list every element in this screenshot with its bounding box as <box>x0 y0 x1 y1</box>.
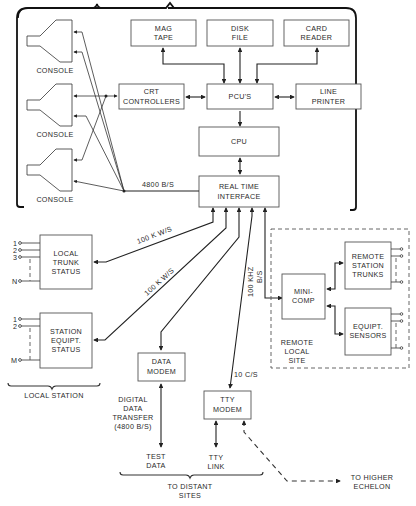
es-label-1: EQUIPT. <box>353 322 383 331</box>
disk-file-label-2: FILE <box>232 33 248 42</box>
distant-sites-label-2: SITES <box>179 491 201 500</box>
ses-label-1: STATION <box>50 327 82 336</box>
local-station-label: LOCAL STATION <box>24 391 83 400</box>
disk-file-label-1: DISK <box>231 24 249 33</box>
tty-rate: 10 C/S <box>234 370 258 379</box>
remote-station-trunks-box: REMOTE STATION TRUNKS <box>345 242 403 289</box>
trunk-link-rate: 100 K W/S <box>135 224 173 246</box>
remote-link-rate-2: B/S <box>255 271 264 284</box>
console-1: CONSOLE <box>27 20 74 75</box>
console-2: CONSOLE <box>27 84 74 139</box>
mag-tape-label-2: TAPE <box>154 33 173 42</box>
lts-label-1: LOCAL <box>53 249 78 258</box>
disk-file-box: DISK FILE <box>207 20 273 46</box>
top-brace <box>18 4 166 18</box>
remote-site-label-3: SITE <box>288 356 305 365</box>
local-station-links: 100 K W/S 100 K W/S <box>94 208 226 340</box>
digital-data-transfer-label: DIGITAL DATA TRANSFER (4800 B/S) <box>112 395 153 431</box>
trunk-input-3: 3 <box>13 253 17 262</box>
tty-modem-label-1: TTY <box>220 395 234 404</box>
console-1-label: CONSOLE <box>36 66 73 75</box>
distant-sites-brace: TO DISTANT SITES <box>120 472 263 500</box>
higher-echelon-label-1: TO HIGHER <box>351 473 394 482</box>
local-station-brace: LOCAL STATION <box>8 383 100 400</box>
card-reader-label-2: READER <box>301 33 333 42</box>
equipt-input-2: 2 <box>13 322 17 331</box>
tty-link-label: TTY LINK <box>207 453 224 471</box>
mini-comp-connections <box>327 263 343 334</box>
crt-label-1: CRT <box>144 87 160 96</box>
mini-comp-label-2: COMP <box>292 296 315 305</box>
rst-label-3: TRUNKS <box>352 270 383 279</box>
higher-echelon-label: TO HIGHER ECHELON <box>351 473 394 491</box>
tty-modem-box: TTY MODEM <box>204 391 251 419</box>
cpu-label: CPU <box>231 137 247 146</box>
local-trunk-status-box: LOCAL TRUNK STATUS <box>40 235 92 289</box>
console-2-label: CONSOLE <box>36 130 73 139</box>
remote-site-label-1: REMOTE <box>281 338 314 347</box>
crt-controllers-box: CRT CONTROLLERS <box>119 84 184 109</box>
ddt-label-4: (4800 B/S) <box>114 422 151 431</box>
mag-tape-box: MAG TAPE <box>131 20 196 46</box>
crt-label-2: CONTROLLERS <box>123 97 180 106</box>
mini-comp-label-1: MINI- <box>294 287 313 296</box>
rti-label-1: REAL TIME <box>219 182 259 191</box>
equipt-input-m: M <box>11 356 17 365</box>
tty-modem-label-2: MODEM <box>213 405 242 414</box>
test-data-label-2: DATA <box>146 461 165 470</box>
remote-site-label-2: LOCAL <box>284 347 309 356</box>
console-link-rate: 4800 B/S <box>142 180 174 189</box>
ddt-label-1: DIGITAL <box>118 395 148 404</box>
pcus-label: PCU'S <box>229 92 252 101</box>
data-modem-label-2: MODEM <box>147 367 176 376</box>
equipt-link-rate: 100 K W/S <box>142 266 176 297</box>
remote-link-rate-1: 100 KHZ <box>246 266 255 297</box>
communications-block-diagram: MAG TAPE DISK FILE CARD READER CRT CONTR… <box>0 0 416 506</box>
data-modem-box: DATA MODEM <box>138 353 185 381</box>
equipt-inputs: 1 2 M <box>11 315 40 365</box>
data-modem-link <box>161 208 239 350</box>
data-modem-label-1: DATA <box>152 357 171 366</box>
es-label-2: SENSORS <box>349 331 386 340</box>
trunk-inputs: 1 2 3 N <box>12 239 40 286</box>
rst-label-2: STATION <box>352 261 384 270</box>
real-time-interface-box: REAL TIME INTERFACE <box>199 176 279 207</box>
lts-label-3: STATUS <box>51 267 80 276</box>
mag-tape-label-1: MAG <box>155 24 172 33</box>
ses-label-3: STATUS <box>51 345 80 354</box>
cpu-box: CPU <box>199 127 279 156</box>
ddt-label-2: DATA <box>123 404 142 413</box>
ses-label-2: EQUIPT. <box>51 336 81 345</box>
console-3: CONSOLE <box>27 149 74 204</box>
tty-link-label-1: TTY <box>209 453 223 462</box>
test-data-label: TEST DATA <box>146 452 166 470</box>
line-printer-label-2: PRINTER <box>312 97 346 106</box>
trunk-input-n: N <box>12 277 18 286</box>
console-3-label: CONSOLE <box>36 195 73 204</box>
lts-label-2: TRUNK <box>53 258 79 267</box>
station-equipt-status-box: STATION EQUIPT. STATUS <box>40 313 92 368</box>
card-reader-label-1: CARD <box>306 24 328 33</box>
distant-sites-label-1: TO DISTANT <box>167 482 212 491</box>
pcus-box: PCU'S <box>207 84 273 109</box>
higher-echelon-label-2: ECHELON <box>354 482 391 491</box>
equipt-sensors-box: EQUIPT. SENSORS <box>345 308 403 355</box>
line-printer-box: LINE PRINTER <box>296 84 361 109</box>
tty-modem-link: 10 C/S <box>230 208 258 388</box>
line-printer-label-1: LINE <box>320 87 337 96</box>
rti-label-2: INTERFACE <box>217 192 260 201</box>
card-reader-box: CARD READER <box>284 20 349 46</box>
console-wiring: 4800 B/S <box>74 32 199 193</box>
tty-link-label-2: LINK <box>207 462 224 471</box>
test-data-label-1: TEST <box>146 452 166 461</box>
rst-label-1: REMOTE <box>352 252 385 261</box>
ddt-label-3: TRANSFER <box>112 413 153 422</box>
mini-comp-box: MINI- COMP <box>282 274 325 319</box>
